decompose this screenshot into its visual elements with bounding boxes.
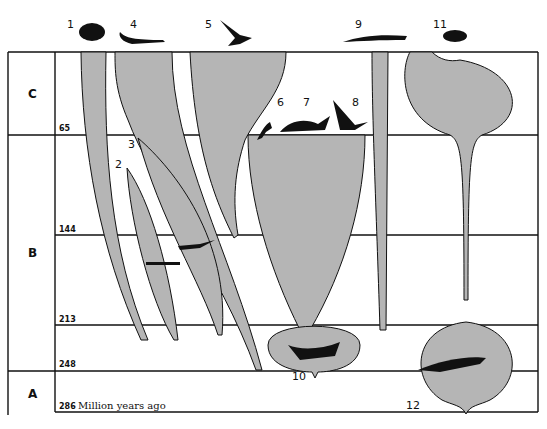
lineage-number-7: 7 xyxy=(303,96,310,109)
crocodile-icon xyxy=(120,32,166,44)
lineage-number-10: 10 xyxy=(292,370,306,383)
bird-icon xyxy=(220,20,252,46)
time-unit-label: Million years ago xyxy=(78,400,166,411)
lineage-number-4: 4 xyxy=(130,18,137,31)
turtle-icon xyxy=(79,23,105,41)
lineage-number-8: 8 xyxy=(352,96,359,109)
lineage-number-1: 1 xyxy=(67,18,74,31)
era-label-a: A xyxy=(28,387,38,401)
lineage-number-3: 3 xyxy=(128,138,135,151)
lineage-number-6: 6 xyxy=(277,96,284,109)
tick-144: 144 xyxy=(59,225,76,234)
tick-65: 65 xyxy=(59,124,71,133)
tick-286: 286 xyxy=(59,402,76,411)
lizard-icon xyxy=(343,35,407,42)
ichthyosaur-icon xyxy=(146,262,180,265)
lineage-number-9: 9 xyxy=(355,18,362,31)
lineage-number-2: 2 xyxy=(115,158,122,171)
lineage-number-11: 11 xyxy=(433,18,447,31)
era-label-b: B xyxy=(28,246,37,260)
era-label-c: C xyxy=(28,87,37,101)
mammal-icon xyxy=(443,30,467,42)
tick-248: 248 xyxy=(59,360,76,369)
lineage-number-12: 12 xyxy=(406,399,420,412)
lineage-6-7-8-dinosaurs xyxy=(248,135,365,330)
triceratops-icon xyxy=(280,116,330,132)
pterosaur-icon xyxy=(333,100,368,130)
lineage-9-lizards xyxy=(372,52,388,330)
evolution-diagram: C B A 65 144 213 248 286 Million years a… xyxy=(0,0,547,429)
lineage-number-5: 5 xyxy=(205,18,212,31)
lineage-11-mammals xyxy=(405,52,513,300)
tick-213: 213 xyxy=(59,315,76,324)
